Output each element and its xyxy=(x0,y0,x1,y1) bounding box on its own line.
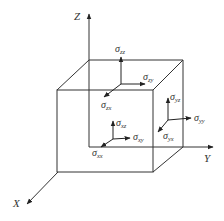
sigma-xx-label: σxx xyxy=(92,147,103,159)
sigma-zy-label: σzy xyxy=(143,71,153,83)
cube-edge-top-right xyxy=(153,60,183,90)
z-axis-label: Z xyxy=(74,10,81,22)
stress-cube-diagram: σzz σzy σzx σyz σyy σyx σxz σxy σxx Z Y … xyxy=(0,0,224,221)
sigma-yx-label: σyx xyxy=(163,130,174,142)
x-axis-label: X xyxy=(12,197,21,209)
y-axis-label: Y xyxy=(204,152,212,164)
sigma-yy-arrow xyxy=(168,118,191,120)
sigma-yz-label: σyz xyxy=(170,91,181,103)
sigma-xx-arrow xyxy=(101,139,113,147)
front-face-stresses: σxz σxy σxx xyxy=(92,117,144,159)
cube-edge-top-left xyxy=(57,60,89,90)
sigma-xy-arrow xyxy=(113,138,130,139)
sigma-xz-label: σxz xyxy=(116,117,127,129)
right-face-stresses: σyz σyy σyx xyxy=(158,91,205,142)
diagram-canvas: σzz σzy σzx σyz σyy σyx σxz σxy σxx Z Y … xyxy=(0,0,224,221)
coordinate-axes xyxy=(27,14,213,204)
x-axis-arrow xyxy=(27,172,58,204)
sigma-zx-label: σzx xyxy=(101,99,111,111)
sigma-zz-label: σzz xyxy=(115,43,125,55)
sigma-xy-label: σxy xyxy=(133,131,144,143)
cube-edge-bottom-right xyxy=(153,147,183,172)
sigma-yy-label: σyy xyxy=(194,112,205,124)
top-face-stresses: σzz σzy σzx xyxy=(101,43,153,111)
cube-element xyxy=(57,60,183,172)
